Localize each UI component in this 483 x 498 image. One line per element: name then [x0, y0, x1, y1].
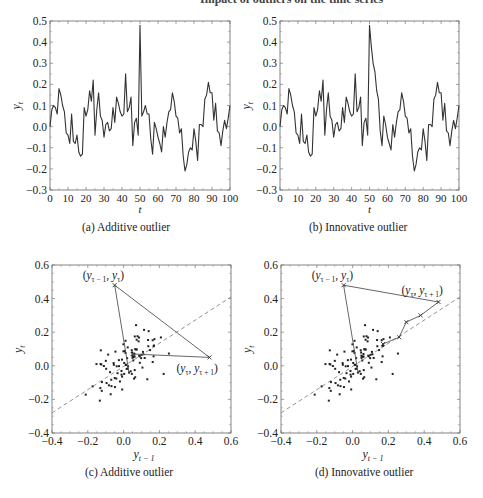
scatter-point [370, 367, 372, 369]
scatter-point [350, 388, 352, 390]
y-tick-label: 0.3 [263, 57, 278, 69]
outlier-marker [397, 335, 401, 339]
scatter-point [121, 359, 123, 361]
scatter-point [122, 350, 124, 352]
scatter-point [354, 364, 356, 366]
scatter-point [329, 364, 331, 366]
scatter-point [118, 359, 120, 361]
scatter-point [110, 385, 112, 387]
scatter-point [114, 351, 116, 353]
x-tick-label: 70 [400, 192, 412, 204]
caption-c: (c) Additive outlier [85, 466, 173, 478]
scatter-point [121, 388, 123, 390]
scatter-point [368, 355, 370, 357]
scatter-point [381, 339, 383, 341]
scatter-point [139, 362, 141, 364]
scatter-point [339, 393, 341, 395]
scatter-point [131, 349, 133, 351]
scatter-point [134, 348, 136, 350]
chart-panel-b: 0102030405060708090100−0.3−0.2−0.10.00.1… [239, 15, 468, 215]
scatter-point [147, 345, 149, 347]
scatter-point [359, 370, 361, 372]
scatter-point [125, 340, 127, 342]
scatter-point [99, 387, 101, 389]
y-tick-label: 0.2 [35, 326, 50, 338]
scatter-point [321, 385, 323, 387]
scatter-point [153, 355, 155, 357]
scatter-point [118, 365, 120, 367]
y-tick-label: 0.2 [33, 78, 48, 90]
x-tick-label: 90 [207, 192, 219, 204]
y-tick-label: 0.1 [263, 100, 278, 112]
scatter-point [143, 329, 145, 331]
outlier-marker [419, 313, 423, 317]
x-tick-label: 80 [418, 192, 430, 204]
x-tick-label: 0.0 [345, 435, 360, 447]
scatter-point [100, 349, 102, 351]
scatter-point [105, 360, 107, 362]
y-tick-label: 0.1 [33, 100, 48, 112]
scatter-point [367, 340, 369, 342]
scatter-point [330, 390, 332, 392]
scatter-point [328, 387, 330, 389]
y-tick-label: −0.4 [28, 427, 49, 439]
scatter-point [375, 378, 377, 380]
scatter-point [115, 378, 117, 380]
x-tick-label: 70 [171, 192, 183, 204]
caption-a: (a) Additive outlier [82, 221, 170, 233]
x-tick-label: 20 [310, 192, 322, 204]
y-tick-label: 0.0 [33, 121, 48, 133]
x-tick-label: 0.4 [417, 435, 432, 447]
scatter-point [139, 355, 141, 357]
scatter-point [350, 374, 352, 376]
scatter-point [106, 382, 108, 384]
outlier-annotation: (yτ, yτ + 1) [177, 362, 219, 377]
scatter-point [334, 368, 336, 370]
scatter-point [138, 340, 140, 342]
y-axis-label: yt [11, 345, 27, 354]
caption-d: (d) Innovative outlier [315, 466, 413, 478]
x-tick-label: 100 [222, 192, 239, 204]
scatter-point [134, 369, 136, 371]
chart-panel-c: −0.4−0.20.00.20.40.6−0.4−0.20.00.20.40.6… [11, 259, 238, 463]
scatter-point [347, 365, 349, 367]
x-tick-label: −0.2 [306, 435, 327, 447]
scatter-point [121, 376, 123, 378]
y-tick-label: 0.4 [264, 293, 279, 305]
scatter-point [123, 373, 125, 375]
x-tick-label: 0 [277, 192, 283, 204]
x-tick-label: 30 [99, 192, 111, 204]
outlier-trajectory [115, 285, 210, 372]
y-tick-label: −0.1 [256, 142, 277, 154]
scatter-point [142, 351, 144, 353]
scatter-point [362, 353, 364, 355]
y-tick-label: 0.4 [35, 293, 50, 305]
x-tick-label: 0.4 [188, 435, 203, 447]
scatter-point [119, 380, 121, 382]
scatter-point [352, 373, 354, 375]
scatter-point [389, 336, 391, 338]
y-tick-label: 0.0 [263, 121, 278, 133]
scatter-point [381, 361, 383, 363]
x-tick-label: 10 [63, 192, 75, 204]
scatter-point [335, 382, 337, 384]
outlier-marker [404, 320, 408, 324]
scatter-point [324, 363, 326, 365]
scatter-point [110, 393, 112, 395]
x-tick-label: 40 [117, 192, 129, 204]
scatter-point [117, 372, 119, 374]
scatter-point [314, 394, 316, 396]
scatter-point [342, 362, 344, 364]
figure-title-partial: Impact of outliers on the time series [200, 0, 384, 6]
scatter-point [329, 349, 331, 351]
scatter-point [334, 360, 336, 362]
series-line [280, 25, 459, 171]
y-tick-label: 0.0 [264, 360, 279, 372]
scatter-point [95, 363, 97, 365]
y-tick-label: 0.6 [264, 259, 279, 271]
scatter-point [103, 365, 105, 367]
scatter-point [141, 367, 143, 369]
scatter-point [134, 376, 136, 378]
x-tick-label: 60 [153, 192, 165, 204]
scatter-point [360, 352, 362, 354]
